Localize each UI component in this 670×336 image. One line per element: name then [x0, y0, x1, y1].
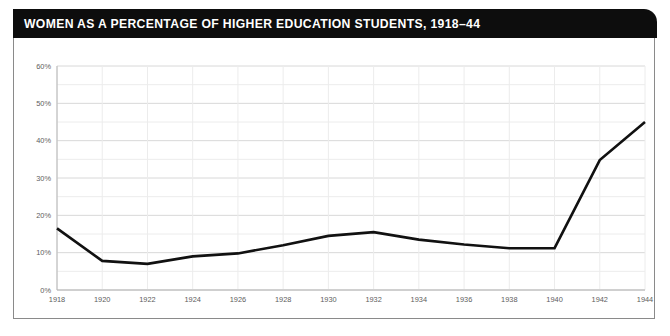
- svg-text:1924: 1924: [184, 295, 200, 304]
- figure: WOMEN AS A PERCENTAGE OF HIGHER EDUCATIO…: [0, 0, 670, 336]
- line-chart: 0%10%20%30%40%50%60% 1918192019221924192…: [13, 39, 655, 319]
- svg-text:1942: 1942: [592, 295, 608, 304]
- plot-area: 0%10%20%30%40%50%60% 1918192019221924192…: [13, 39, 655, 319]
- svg-text:30%: 30%: [36, 174, 51, 183]
- data-series-line: [57, 122, 645, 264]
- page-title: WOMEN AS A PERCENTAGE OF HIGHER EDUCATIO…: [24, 17, 480, 31]
- svg-text:1922: 1922: [139, 295, 155, 304]
- svg-text:50%: 50%: [36, 99, 51, 108]
- svg-text:20%: 20%: [36, 211, 51, 220]
- svg-text:1944: 1944: [637, 295, 653, 304]
- svg-text:1930: 1930: [320, 295, 336, 304]
- svg-text:40%: 40%: [36, 136, 51, 145]
- grid-major-lines: [57, 66, 645, 290]
- svg-text:1940: 1940: [546, 295, 562, 304]
- svg-text:0%: 0%: [40, 286, 51, 295]
- svg-text:1918: 1918: [49, 295, 65, 304]
- svg-text:60%: 60%: [36, 62, 51, 71]
- svg-text:1938: 1938: [501, 295, 517, 304]
- svg-text:10%: 10%: [36, 248, 51, 257]
- svg-text:1926: 1926: [230, 295, 246, 304]
- svg-text:1932: 1932: [365, 295, 381, 304]
- y-axis-tick-labels: 0%10%20%30%40%50%60%: [36, 62, 51, 295]
- x-axis-tick-labels: 1918192019221924192619281930193219341936…: [49, 295, 653, 304]
- svg-text:1928: 1928: [275, 295, 291, 304]
- svg-text:1936: 1936: [456, 295, 472, 304]
- svg-text:1934: 1934: [411, 295, 427, 304]
- chart-title-bar: WOMEN AS A PERCENTAGE OF HIGHER EDUCATIO…: [13, 9, 657, 38]
- svg-text:1920: 1920: [94, 295, 110, 304]
